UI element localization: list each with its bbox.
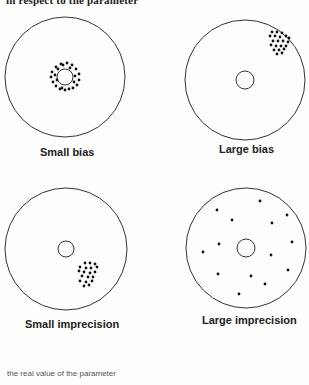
true-value-circle	[237, 239, 255, 257]
outer-target-circle	[186, 188, 306, 308]
measurement-dot	[276, 53, 279, 56]
measurement-dot	[280, 45, 283, 48]
measurement-dot	[89, 272, 92, 275]
measurement-dot	[54, 74, 57, 77]
measurement-dot	[85, 281, 88, 284]
measurement-dot	[85, 267, 88, 270]
measurement-dot	[69, 67, 72, 70]
measurement-dot	[92, 276, 95, 279]
measurement-dot	[64, 89, 67, 92]
label-large-bias: Large bias	[219, 143, 274, 155]
measurement-dot	[285, 45, 288, 48]
measurement-dot	[83, 271, 86, 274]
label-small-imprecision: Small imprecision	[25, 318, 119, 330]
measurement-dot	[287, 41, 290, 44]
measurement-dot	[79, 266, 82, 269]
measurement-dot	[231, 219, 234, 222]
measurement-dot	[68, 88, 71, 91]
measurement-dot	[279, 36, 282, 39]
measurement-dot	[78, 79, 81, 82]
measurement-dot	[286, 214, 289, 217]
measurement-dot	[75, 68, 78, 71]
measurement-dot	[270, 254, 273, 257]
measurement-dot	[288, 37, 291, 40]
measurement-dot	[273, 49, 276, 52]
measurement-dot	[94, 271, 97, 274]
true-value-circle	[57, 69, 73, 85]
outer-target-circle	[5, 188, 127, 310]
measurement-dot	[55, 66, 58, 69]
measurement-dot	[202, 251, 205, 254]
label-small-bias: Small bias	[40, 146, 94, 158]
measurement-dot	[281, 52, 284, 55]
measurement-dot	[78, 73, 81, 76]
measurement-dot	[56, 79, 59, 82]
true-value-circle	[58, 241, 74, 257]
measurement-dot	[277, 40, 280, 43]
measurement-dot	[66, 62, 69, 65]
measurement-dot	[272, 40, 275, 43]
measurement-dot	[50, 76, 53, 79]
measurement-dot	[91, 280, 94, 283]
panel-small-imprecision	[5, 188, 127, 310]
measurement-dot	[89, 262, 92, 265]
measurement-dot	[57, 68, 60, 71]
measurement-dot	[291, 241, 294, 244]
measurement-dot	[88, 284, 91, 287]
measurement-dot	[84, 262, 87, 265]
measurement-dot	[72, 87, 75, 90]
measurement-dot	[285, 35, 288, 38]
measurement-dot	[78, 270, 81, 273]
measurement-dot	[250, 275, 253, 278]
measurement-dot	[216, 209, 219, 212]
outer-target-circle	[5, 17, 125, 137]
measurement-dot	[218, 243, 221, 246]
measurement-dot	[73, 81, 76, 84]
true-value-circle	[236, 71, 254, 89]
measurement-dot	[62, 64, 65, 67]
measurement-dot	[283, 48, 286, 51]
measurement-dot	[83, 285, 86, 288]
caption-real-value: the real value of the parameter	[7, 369, 116, 378]
measurement-dot	[94, 263, 97, 266]
measurement-dot	[55, 85, 58, 88]
measurement-dot	[217, 273, 220, 276]
measurement-dot	[281, 32, 284, 35]
measurement-dot	[51, 71, 54, 74]
measurement-dot	[278, 49, 281, 52]
measurement-dot	[275, 45, 278, 48]
measurement-dot	[87, 276, 90, 279]
measurement-dot	[79, 280, 82, 283]
outer-target-circle	[185, 20, 305, 140]
panel-large-imprecision	[186, 188, 306, 308]
measurement-dot	[90, 267, 93, 270]
measurement-dot	[287, 269, 290, 272]
measurement-dot	[274, 35, 277, 38]
measurement-dot	[259, 200, 262, 203]
measurement-dot	[96, 266, 99, 269]
measurement-dot	[276, 31, 279, 34]
measurement-dot	[81, 275, 84, 278]
measurement-dot	[282, 40, 285, 43]
measurement-dot	[71, 64, 74, 67]
measurement-dot	[76, 84, 79, 87]
panel-small-bias	[5, 17, 125, 137]
measurement-dot	[74, 75, 77, 78]
measurement-dot	[271, 222, 274, 225]
label-large-imprecision: Large imprecision	[202, 314, 297, 326]
measurement-dot	[269, 35, 272, 38]
measurement-dot	[271, 31, 274, 34]
measurement-dot	[61, 87, 64, 90]
panel-large-bias	[185, 20, 305, 140]
measurement-dot	[264, 283, 267, 286]
measurement-dot	[270, 44, 273, 47]
measurement-dot	[52, 81, 55, 84]
measurement-dot	[238, 293, 241, 296]
